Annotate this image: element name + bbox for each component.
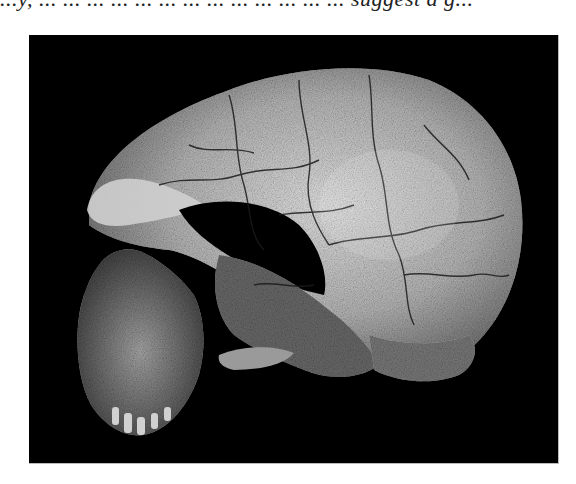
vault-highlight bbox=[319, 150, 459, 260]
zygomatic-arch bbox=[219, 347, 294, 370]
skull-illustration bbox=[29, 35, 558, 463]
face-maxilla bbox=[77, 249, 203, 435]
cut-off-caption-text: ...y, ... ... ... ... ... ... ... ... ..… bbox=[0, 0, 576, 12]
skull-photograph bbox=[29, 35, 559, 464]
